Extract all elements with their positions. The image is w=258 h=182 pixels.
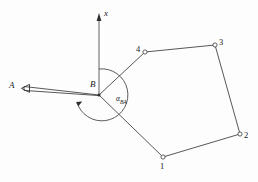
x-axis-arrowhead-icon — [97, 13, 102, 21]
vertex-marker-4 — [143, 50, 147, 54]
diagram-canvas: x A B αBA 1 2 3 4 — [0, 0, 258, 182]
edge-B-1 — [99, 95, 163, 157]
vertex-marker-1 — [161, 155, 165, 159]
station-marker-B — [98, 94, 101, 97]
station-label-b: B — [90, 80, 96, 89]
x-axis-label: x — [104, 9, 108, 18]
vertex-marker-3 — [213, 43, 217, 47]
vertex-label-2: 2 — [244, 131, 248, 140]
edge-1-2 — [163, 134, 240, 157]
backsight-line-BA — [24, 87, 99, 96]
vertex-label-3: 3 — [219, 38, 223, 47]
vertex-label-4: 4 — [136, 45, 140, 54]
station-label-a: A — [9, 81, 15, 90]
azimuth-arc-arrowhead-icon — [76, 102, 82, 107]
station-A-arrowhead-icon — [22, 84, 30, 92]
azimuth-angle-label: αBA — [116, 95, 127, 105]
vertex-label-1: 1 — [160, 162, 164, 171]
edge-3-4 — [145, 45, 215, 52]
vertex-marker-2 — [238, 132, 242, 136]
traverse-diagram-svg — [0, 0, 258, 182]
azimuth-angle-subscript: BA — [120, 99, 127, 105]
edge-4-B — [99, 52, 145, 95]
edge-2-3 — [215, 45, 240, 134]
